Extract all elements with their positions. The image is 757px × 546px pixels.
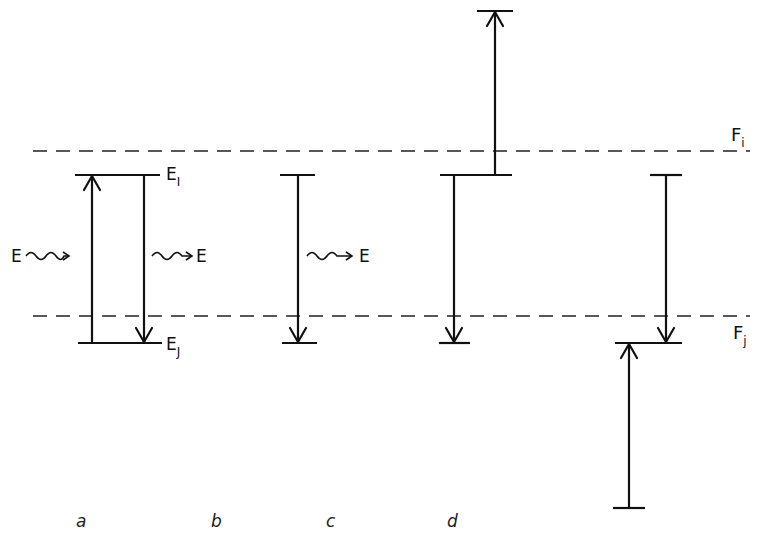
panel-d	[613, 175, 682, 508]
fj-label: Fj	[733, 322, 747, 348]
wavy-photon-icon	[307, 253, 352, 260]
panel-c	[439, 11, 513, 343]
outgoing-photon-label: E	[359, 246, 370, 266]
panel-a-label: a	[76, 511, 86, 531]
ej-label: EJ	[166, 334, 180, 359]
incoming-photon-label: E	[11, 246, 22, 266]
ei-label: EI	[166, 164, 180, 189]
panel-c-label: c	[326, 511, 336, 531]
outgoing-photon-label: E	[196, 246, 207, 266]
wavy-photon-icon	[152, 253, 192, 260]
panel-a: EI EJ E E	[11, 164, 207, 359]
fi-label: Fi	[731, 124, 745, 150]
wavy-photon-icon	[26, 253, 69, 260]
panel-d-label: d	[447, 511, 458, 531]
energy-level-diagram: Fi Fj EI EJ E E E	[0, 0, 757, 546]
panel-b-label: b	[211, 511, 222, 531]
panel-b: E	[280, 175, 370, 343]
